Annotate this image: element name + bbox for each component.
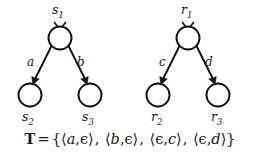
s-leaf-node-right [79,84,102,107]
r-root-label-subscript: 1 [187,10,192,20]
s-edge-a-line [35,45,53,80]
formula-set-name: T [24,130,35,147]
s-leaf-left-label: s2 [22,111,34,126]
formula-pair-left: a [67,131,76,147]
r-edge-label-c: c [159,56,166,68]
s-leaf-node-left [19,84,42,107]
s-root-label: s1 [52,4,64,19]
formula-pair-left: ϵ [199,131,207,147]
r-leaf-left-label: r2 [151,111,162,126]
s-leaf-right-label-subscript: 3 [88,117,93,127]
formula-pair-left: b [111,131,120,147]
formula-pair: ⟨b,ϵ⟩ [105,131,138,147]
s-root-label-subscript: 1 [58,10,63,20]
s-root-node [49,27,72,50]
formula-close-angle: ⟩ [88,131,94,147]
formula-close-angle: ⟩ [176,131,182,147]
formula-pair-right: d [211,131,220,147]
formula-pair-right: ϵ [124,131,132,147]
r-edge-label-d-text: d [205,55,213,69]
r-root-node [177,27,200,50]
formula-pair-separator: , [138,131,149,147]
formula-equals-operator: = [36,131,52,147]
s-edge-label-b-text: b [77,55,85,69]
formula-pair: ⟨a,ϵ⟩ [61,131,94,147]
tree-pair-figure: s1 a b s2 s3 r1 c d r2 r3 T={⟨a,ϵ⟩, ⟨b,ϵ… [0,0,260,166]
s-edge-label-a: a [27,56,34,68]
formula-close-brace: } [226,131,235,147]
formula-pair-list: ⟨a,ϵ⟩, ⟨b,ϵ⟩, ⟨ϵ,c⟩, ⟨ϵ,d⟩ [61,131,226,147]
formula-open-brace: { [52,131,61,147]
s-edge-label-b: b [77,56,85,68]
r-leaf-right-label: r3 [211,111,222,126]
r-edge-label-c-text: c [159,55,166,69]
formula-pair: ⟨ϵ,c⟩ [150,131,182,147]
r-root-label: r1 [181,4,192,19]
formula-pair-right: c [168,131,176,147]
alignment-set-formula: T={⟨a,ϵ⟩, ⟨b,ϵ⟩, ⟨ϵ,c⟩, ⟨ϵ,d⟩} [0,131,260,148]
formula-pair-separator: , [94,131,105,147]
r-edge-label-d: d [205,56,213,68]
s-leaf-left-label-subscript: 2 [28,117,33,127]
r-leaf-right-label-subscript: 3 [217,117,222,127]
formula-pair-separator: , [182,131,193,147]
r-leaf-node-right [207,84,230,107]
s-leaf-right-label: s3 [82,111,94,126]
r-leaf-left-label-subscript: 2 [157,117,162,127]
r-leaf-node-left [147,84,170,107]
formula-pair-right: ϵ [80,131,88,147]
formula-pair: ⟨ϵ,d⟩ [193,131,226,147]
s-edge-label-a-text: a [27,55,34,69]
